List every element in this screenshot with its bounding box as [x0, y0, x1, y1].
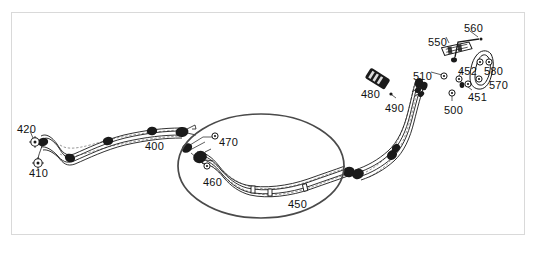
callout-label-400: 400	[145, 141, 164, 152]
component-480	[365, 68, 391, 90]
callout-label-420: 420	[17, 124, 36, 135]
callout-label-510: 510	[413, 71, 432, 82]
callout-label-470: 470	[219, 137, 238, 148]
callout-label-451: 451	[468, 92, 487, 103]
callout-label-480: 480	[361, 89, 380, 100]
callout-label-580: 580	[484, 66, 503, 77]
callout-label-410: 410	[29, 168, 48, 179]
callout-label-460: 460	[203, 177, 222, 188]
callout-label-450: 450	[288, 199, 307, 210]
fitting-410	[32, 146, 44, 169]
callout-label-500: 500	[444, 105, 463, 116]
callout-label-490: 490	[385, 103, 404, 114]
component-500	[449, 90, 455, 101]
hose-assembly-450	[197, 152, 348, 197]
callout-label-560: 560	[464, 23, 483, 34]
highlight-ellipse	[178, 114, 344, 218]
callout-label-550: 550	[428, 37, 447, 48]
callout-label-570: 570	[489, 80, 508, 91]
component-490	[389, 92, 396, 98]
callout-label-452: 452	[458, 66, 477, 77]
parts-diagram	[0, 0, 536, 253]
